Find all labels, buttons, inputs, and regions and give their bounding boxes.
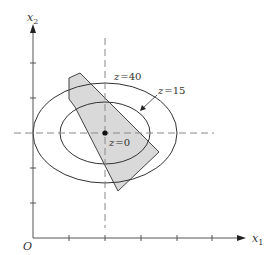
contour-label-z15: z=15	[157, 85, 185, 96]
contour-label-z0: z=0	[108, 137, 130, 148]
contour-diagram: x2 x1 O z=40 z=15 z=0	[0, 0, 273, 255]
z15-leader-line	[143, 95, 157, 108]
feasible-region	[69, 73, 159, 191]
origin-label: O	[23, 240, 32, 253]
x-axis-label: x1	[252, 232, 263, 247]
x-axis-arrow-icon	[237, 235, 246, 241]
contour-label-z40: z=40	[113, 71, 141, 82]
optimum-point	[102, 130, 107, 135]
y-axis-label: x2	[27, 11, 38, 26]
